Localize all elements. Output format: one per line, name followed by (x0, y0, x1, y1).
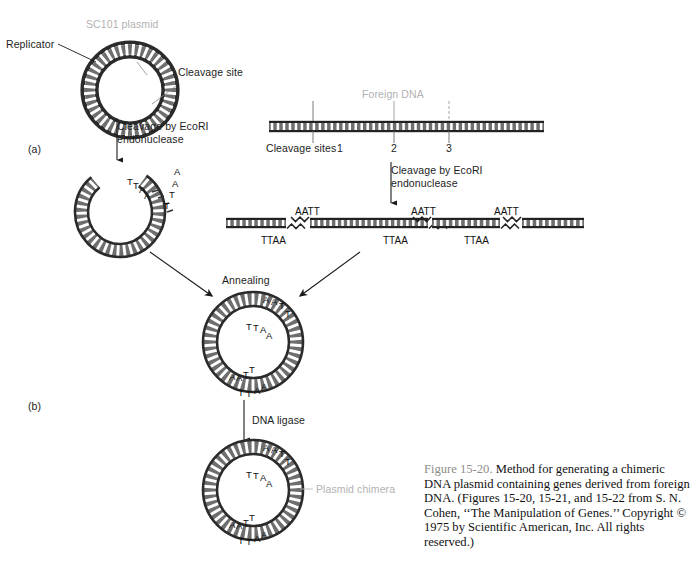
panel-label-a: (a) (28, 143, 41, 155)
svg-text:T: T (246, 388, 252, 399)
step-cleavage-foreign-line2: endonuclease (391, 177, 458, 189)
plasmid-title-label: SC101 plasmid (86, 18, 159, 30)
svg-text:A: A (236, 520, 243, 531)
replicator-label: Replicator (6, 38, 54, 50)
svg-text:A: A (261, 529, 268, 540)
svg-text:T: T (249, 364, 255, 375)
svg-text:A: A (261, 381, 268, 392)
fragment-3-bottom-bases: TTAA (464, 236, 489, 246)
svg-text:T: T (246, 469, 252, 480)
svg-text:A: A (271, 444, 278, 455)
fragment-3-top-bases: AATT (411, 207, 436, 217)
cleavage-site-label: Cleavage site (178, 66, 243, 78)
svg-text:T: T (169, 189, 175, 200)
svg-text:A: A (263, 442, 270, 453)
fragment-2-bottom-bases: TTAA (383, 236, 408, 246)
svg-text:A: A (172, 178, 179, 189)
svg-text:T: T (249, 512, 255, 523)
svg-text:A: A (254, 533, 261, 544)
svg-text:A: A (229, 519, 236, 530)
svg-text:T: T (253, 322, 259, 333)
step-cleavage-foreign-line1: Cleavage by EcoRI (391, 164, 483, 176)
svg-text:A: A (266, 478, 273, 489)
foreign-dna-duplex (269, 101, 544, 143)
svg-text:T: T (246, 321, 252, 332)
svg-text:T: T (285, 308, 291, 319)
svg-text:A: A (271, 296, 278, 307)
plasmid-cut (75, 176, 173, 257)
caption-figure-number: Figure 15-20. (424, 462, 493, 476)
svg-text:T: T (253, 470, 259, 481)
cleavage-site-2-label: 2 (391, 142, 397, 154)
annealing-label: Annealing (222, 274, 270, 286)
plasmid-chimera-label: Plasmid chimera (316, 483, 395, 495)
dna-ligase-label: DNA ligase (252, 414, 305, 426)
fragment-4-top-bases: AATT (494, 207, 519, 217)
svg-text:T: T (164, 200, 170, 211)
svg-text:A: A (266, 330, 273, 341)
svg-text:T: T (238, 387, 244, 398)
plasmid-annealed (203, 292, 303, 392)
cleavage-site-1-label: 1 (337, 142, 343, 154)
fragment-1-bottom-bases: TTAA (261, 236, 286, 246)
figure-caption: Figure 15-20. Method for generating a ch… (424, 462, 692, 550)
cleavage-site-3-label: 3 (446, 142, 452, 154)
step-cleavage-plasmid-line1: Cleavage by EcoRI (117, 120, 209, 132)
step-cleavage-plasmid-line2: endonuclease (117, 133, 184, 145)
svg-text:T: T (246, 536, 252, 547)
cleavage-sites-label: Cleavage sites (266, 142, 336, 154)
svg-text:A: A (263, 294, 270, 305)
foreign-dna-label: Foreign DNA (362, 88, 424, 100)
fragment-2-top-bases: AATT (295, 207, 320, 217)
svg-text:T: T (285, 456, 291, 467)
svg-text:T: T (238, 535, 244, 546)
svg-text:A: A (144, 190, 151, 201)
svg-text:A: A (254, 385, 261, 396)
plasmid-chimera (203, 440, 313, 540)
panel-label-b: (b) (28, 400, 41, 412)
svg-text:A: A (236, 372, 243, 383)
svg-text:A: A (229, 371, 236, 382)
svg-text:A: A (174, 166, 181, 177)
dna-fragments (226, 217, 584, 229)
